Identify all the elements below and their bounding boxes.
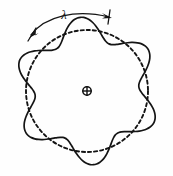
center-marker (82, 86, 91, 95)
figure-canvas: λ (0, 0, 173, 176)
wavelength-figure: λ (0, 0, 173, 176)
wavelength-label: λ (60, 8, 67, 22)
